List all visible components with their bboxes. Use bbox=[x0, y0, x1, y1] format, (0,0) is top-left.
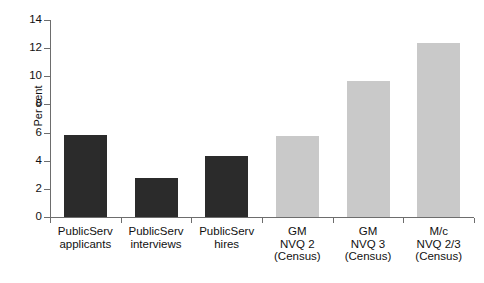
x-axis-tick bbox=[474, 218, 475, 223]
x-axis-tick bbox=[333, 218, 334, 223]
y-axis-tick-label-wrap: 6 bbox=[0, 127, 42, 139]
y-axis-tick-label-wrap: 2 bbox=[0, 183, 42, 195]
bar-chart-figure: Per cent 02468101214 PublicServ applican… bbox=[0, 0, 484, 283]
x-axis-tick bbox=[262, 218, 263, 223]
x-axis-category-label: GM NVQ 3 (Census) bbox=[333, 225, 404, 263]
y-axis-tick-label-wrap: 10 bbox=[0, 70, 42, 82]
bar[interactable] bbox=[64, 135, 107, 217]
y-axis-tick-label: 12 bbox=[2, 42, 42, 54]
y-axis-tick-label-wrap: 0 bbox=[0, 211, 42, 223]
x-axis-tick bbox=[191, 218, 192, 223]
y-axis-tick-label: 14 bbox=[2, 14, 42, 26]
y-axis-tick-label: 6 bbox=[2, 127, 42, 139]
x-axis-tick bbox=[50, 218, 51, 223]
x-axis-tick bbox=[121, 218, 122, 223]
bars-layer bbox=[50, 20, 474, 217]
x-axis-tick bbox=[403, 218, 404, 223]
y-axis-tick-label-wrap: 14 bbox=[0, 14, 42, 26]
y-axis-tick-label: 2 bbox=[2, 183, 42, 195]
bar[interactable] bbox=[135, 178, 178, 217]
y-axis-tick-label: 0 bbox=[2, 211, 42, 223]
y-axis-tick-label-wrap: 12 bbox=[0, 42, 42, 54]
y-axis-tick-label: 10 bbox=[2, 70, 42, 82]
bar[interactable] bbox=[276, 136, 319, 217]
bar[interactable] bbox=[417, 43, 460, 217]
x-axis-category-label: PublicServ hires bbox=[191, 225, 262, 250]
y-axis-tick-label-wrap: 4 bbox=[0, 155, 42, 167]
y-axis-tick-label: 4 bbox=[2, 155, 42, 167]
x-axis-category-label: M/c NVQ 2/3 (Census) bbox=[403, 225, 474, 263]
x-axis-category-label: GM NVQ 2 (Census) bbox=[262, 225, 333, 263]
bar[interactable] bbox=[347, 81, 390, 217]
bar[interactable] bbox=[205, 156, 248, 217]
y-axis-tick-label: 8 bbox=[2, 98, 42, 110]
x-axis-category-label: PublicServ interviews bbox=[121, 225, 192, 250]
x-axis-category-label: PublicServ applicants bbox=[50, 225, 121, 250]
y-axis-tick-label-wrap: 8 bbox=[0, 98, 42, 110]
